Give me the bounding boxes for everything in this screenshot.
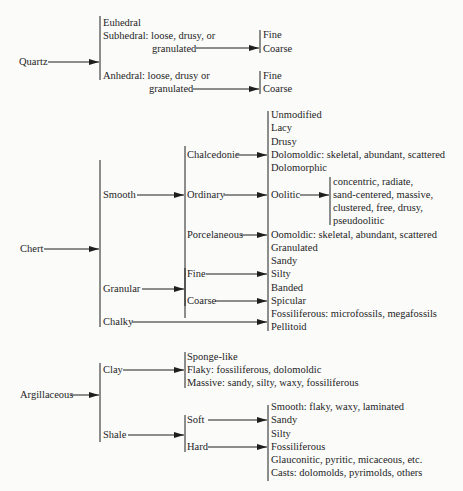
texture-fossiliferous: Fossiliferous: microfossils, megafossils bbox=[271, 307, 437, 320]
argillaceous-clay: Clay bbox=[103, 363, 123, 376]
shale-texture-fossiliferous: Fossiliferous bbox=[271, 440, 325, 453]
quartz-euhedral: Euhedral bbox=[103, 16, 141, 29]
quartz-anhedral: Anhedral: loose, drusy or bbox=[103, 69, 210, 82]
quartz-sub-coarse: Coarse bbox=[263, 42, 292, 55]
texture-pellitoid: Pellitoid bbox=[271, 320, 307, 333]
quartz-subhedral: Subhedral: loose, drusy, or bbox=[103, 29, 215, 42]
oolitic-type-3: clustered, free, drusy, bbox=[333, 201, 423, 214]
shale-texture-sandy: Sandy bbox=[271, 413, 297, 426]
connector-lines bbox=[0, 0, 463, 491]
shale-texture-silty: Silty bbox=[271, 427, 291, 440]
node-quartz: Quartz bbox=[19, 55, 48, 68]
texture-silty: Silty bbox=[271, 267, 291, 280]
quartz-anh-coarse: Coarse bbox=[263, 82, 292, 95]
texture-dolomoldic: Dolomoldic: skeletal, abundant, scattere… bbox=[271, 148, 445, 161]
shale-texture-casts: Casts: dolomolds, pyrimolds, others bbox=[271, 466, 422, 479]
smooth-chalcedonic: Chalcedonic bbox=[187, 148, 239, 161]
texture-spicular: Spicular bbox=[271, 294, 306, 307]
oolitic-type-2: sand-centered, massive, bbox=[333, 188, 433, 201]
smooth-porcelaneous: Porcelaneous bbox=[187, 228, 243, 241]
shale-soft: Soft bbox=[187, 413, 205, 426]
texture-lacy: Lacy bbox=[271, 121, 292, 134]
texture-drusy: Drusy bbox=[271, 135, 297, 148]
quartz-subhedral-cont: granulated bbox=[152, 42, 196, 55]
node-chert: Chert bbox=[20, 242, 43, 255]
texture-oomoldic: Oomoldic: skeletal, abundant, scattered bbox=[271, 228, 437, 241]
texture-granulated: Granulated bbox=[271, 241, 318, 254]
texture-banded: Banded bbox=[271, 281, 303, 294]
clay-massive: Massive: sandy, silty, waxy, fossilifero… bbox=[187, 376, 358, 389]
oolitic-type-4: pseudoolitic bbox=[333, 214, 384, 227]
granular-coarse: Coarse bbox=[187, 294, 216, 307]
clay-flaky: Flaky: fossiliferous, dolomoldic bbox=[187, 363, 321, 376]
shale-texture-smooth: Smooth: flaky, waxy, laminated bbox=[271, 400, 404, 413]
texture-sandy: Sandy bbox=[271, 254, 297, 267]
oolitic-type-1: concentric, radiate, bbox=[333, 175, 413, 188]
smooth-ordinary: Ordinary bbox=[187, 188, 225, 201]
clay-sponge-like: Sponge-like bbox=[187, 350, 238, 363]
argillaceous-shale: Shale bbox=[103, 428, 126, 441]
chert-chalky: Chalky bbox=[103, 315, 133, 328]
chert-smooth: Smooth bbox=[103, 188, 136, 201]
quartz-anhedral-cont: granulated bbox=[149, 82, 193, 95]
chert-granular: Granular bbox=[103, 282, 140, 295]
shale-hard: Hard bbox=[187, 440, 208, 453]
texture-oolitic: Oolitic bbox=[271, 188, 300, 201]
granular-fine: Fine bbox=[187, 267, 206, 280]
quartz-sub-fine: Fine bbox=[263, 28, 282, 41]
node-argillaceous: Argillaceous bbox=[20, 388, 73, 401]
texture-dolomorphic: Dolomorphic bbox=[271, 161, 327, 174]
texture-unmodified: Unmodified bbox=[271, 108, 322, 121]
quartz-anh-fine: Fine bbox=[263, 69, 282, 82]
shale-texture-glauconitic: Glauconitic, pyritic, micaceous, etc. bbox=[271, 453, 422, 466]
